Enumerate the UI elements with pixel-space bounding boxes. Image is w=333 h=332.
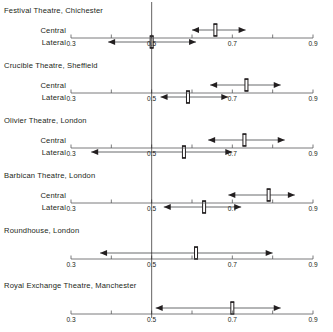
x-tick-label-1-4: 0.7	[228, 95, 237, 102]
row-label-central-0: Central	[40, 26, 66, 35]
row-label-central-2: Central	[40, 136, 66, 145]
point-estimate-1-0	[245, 79, 248, 92]
x-tick-label-4-6: 0.9	[308, 261, 317, 268]
row-label-lateral-3: Lateral	[42, 203, 66, 212]
point-estimate-2-0	[243, 134, 246, 147]
row-label-central-1: Central	[40, 81, 66, 90]
x-tick-label-3-0: 0.3	[66, 205, 75, 212]
ci-low-arrow-1-0	[210, 82, 217, 88]
ci-low-arrow-0-0	[192, 27, 199, 33]
ci-high-arrow-1-0	[274, 82, 281, 88]
x-tick-label-5-0: 0.3	[66, 316, 75, 323]
panel-title-0: Festival Theatre, Chichester	[4, 6, 103, 15]
x-tick-label-2-4: 0.7	[228, 150, 237, 157]
x-tick-label-5-4: 0.7	[228, 316, 237, 323]
ci-low-arrow-2-0	[208, 137, 215, 143]
row-label-lateral-2: Lateral	[42, 148, 66, 157]
ci-low-arrow-4-0	[100, 250, 107, 256]
ci-high-arrow-2-0	[278, 137, 285, 143]
x-tick-label-0-6: 0.9	[308, 40, 317, 47]
x-tick-label-0-4: 0.7	[228, 40, 237, 47]
forest-plot-figure: Festival Theatre, ChichesterCentralLater…	[0, 0, 333, 332]
panel-title-5: Royal Exchange Theatre, Manchester	[4, 281, 137, 290]
point-estimate-3-0	[267, 189, 270, 202]
panel-title-3: Barbican Theatre, London	[4, 171, 95, 180]
ci-high-arrow-3-0	[288, 192, 295, 198]
x-tick-label-2-6: 0.9	[308, 150, 317, 157]
panel-title-1: Crucible Theatre, Sheffield	[4, 61, 98, 70]
x-tick-label-0-0: 0.3	[66, 40, 75, 47]
point-estimate-4-0	[195, 247, 198, 260]
ci-low-arrow-0-1	[108, 39, 115, 45]
row-label-central-3: Central	[40, 191, 66, 200]
x-tick-label-3-4: 0.7	[228, 205, 237, 212]
ci-high-arrow-0-0	[239, 27, 246, 33]
ci-high-arrow-4-0	[266, 250, 273, 256]
x-tick-label-3-6: 0.9	[308, 205, 317, 212]
x-tick-label-1-6: 0.9	[308, 95, 317, 102]
x-tick-label-2-0: 0.3	[66, 150, 75, 157]
panel-title-2: Olivier Theatre, London	[4, 116, 87, 125]
row-label-lateral-0: Lateral	[42, 38, 66, 47]
x-tick-label-1-0: 0.3	[66, 95, 75, 102]
row-label-lateral-1: Lateral	[42, 93, 66, 102]
x-tick-label-4-4: 0.7	[228, 261, 237, 268]
ci-high-arrow-5-0	[274, 305, 281, 311]
ci-low-arrow-1-1	[161, 94, 168, 100]
plot-canvas: Festival Theatre, ChichesterCentralLater…	[0, 0, 333, 332]
point-estimate-0-0	[214, 24, 217, 37]
panel-title-4: Roundhouse, London	[4, 226, 79, 235]
ci-low-arrow-3-0	[228, 192, 235, 198]
ci-low-arrow-3-1	[164, 204, 171, 210]
ci-low-arrow-5-0	[156, 305, 163, 311]
x-tick-label-4-0: 0.3	[66, 261, 75, 268]
x-tick-label-5-6: 0.9	[308, 316, 317, 323]
ci-low-arrow-2-1	[91, 149, 98, 155]
ci-high-arrow-0-1	[189, 39, 196, 45]
